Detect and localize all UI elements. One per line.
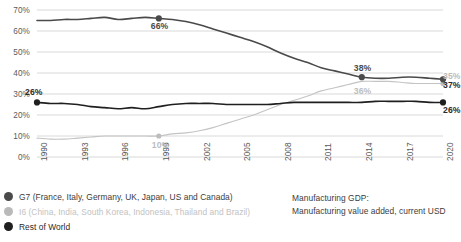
value-label-rest-of-world-1990: 26% — [25, 87, 43, 97]
chart-legend: G7 (France, Italy, Germany, UK, Japan, U… — [4, 189, 294, 234]
legend-label-rest-of-world: Rest of World — [19, 222, 70, 232]
value-label-g7-1999: 66% — [151, 21, 169, 31]
x-axis-tick-2014: 2014 — [365, 142, 374, 161]
legend-item-g7[interactable]: G7 (France, Italy, Germany, UK, Japan, U… — [4, 189, 294, 204]
x-axis-tick-1993: 1993 — [81, 142, 90, 161]
legend-item-i6[interactable]: I6 (China, India, South Korea, Indonesia… — [4, 204, 294, 219]
y-axis-tick-50: 50% — [0, 48, 30, 57]
chart-note: Manufacturing GDP: Manufacturing value a… — [292, 192, 446, 218]
note-line-1: Manufacturing GDP: — [292, 192, 446, 205]
x-axis-tick-2008: 2008 — [284, 142, 293, 161]
legend-dot-g7 — [4, 192, 13, 201]
legend-label-i6: I6 (China, India, South Korea, Indonesia… — [19, 207, 250, 217]
series-markers — [34, 15, 446, 138]
x-axis-tick-2002: 2002 — [203, 142, 212, 161]
x-axis-tick-2017: 2017 — [406, 142, 415, 161]
series-lines — [37, 17, 443, 139]
x-axis-tick-1990: 1990 — [40, 142, 49, 161]
legend-item-rest-of-world[interactable]: Rest of World — [4, 219, 294, 234]
y-axis-tick-10: 10% — [0, 132, 30, 141]
y-axis-tick-40: 40% — [0, 69, 30, 78]
gridlines — [37, 10, 443, 157]
y-axis-tick-20: 20% — [0, 111, 30, 120]
value-label-i6-1999: 10% — [152, 140, 170, 150]
y-axis-tick-60: 60% — [0, 27, 30, 36]
value-label-i6-2014: 36% — [354, 86, 372, 96]
legend-dot-i6 — [4, 207, 13, 216]
legend-dot-rest-of-world — [4, 222, 13, 231]
legend-label-g7: G7 (France, Italy, Germany, UK, Japan, U… — [19, 192, 233, 202]
note-line-2: Manufacturing value added, current USD — [292, 205, 446, 218]
value-label-rest-of-world-2020: 26% — [443, 105, 461, 115]
x-axis-tick-2005: 2005 — [243, 142, 252, 161]
value-label-i6-2020: 35% — [443, 71, 461, 81]
value-label-g7-2014: 38% — [354, 63, 372, 73]
x-axis-tick-2020: 2020 — [446, 142, 455, 161]
y-axis-tick-70: 70% — [0, 6, 30, 15]
x-axis-tick-1996: 1996 — [121, 142, 130, 161]
y-axis-tick-0: 0% — [0, 153, 30, 162]
x-axis-tick-2011: 2011 — [324, 143, 333, 161]
value-label-g7-2020: 37% — [443, 80, 461, 90]
